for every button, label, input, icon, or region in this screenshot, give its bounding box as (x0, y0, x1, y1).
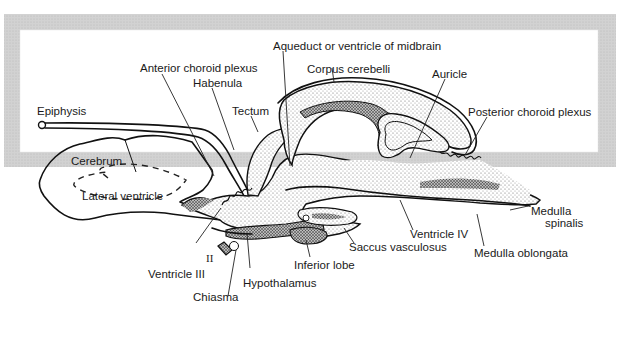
label-cerebrum: Cerebrum (71, 155, 122, 167)
label-inferior-lobe: Inferior lobe (294, 259, 355, 271)
label-aqueduct: Aqueduct or ventricle of midbrain (273, 40, 441, 52)
label-spinalis: spinalis (545, 217, 584, 229)
inferior-lobe-shape (290, 227, 327, 244)
brain-diagram: Aqueduct or ventricle of midbrain Corpus… (0, 0, 619, 345)
label-tectum: Tectum (232, 105, 269, 117)
saccus-vasculosus-shape (298, 208, 357, 225)
label-nerve-ii: II (206, 252, 214, 264)
label-habenula: Habenula (193, 77, 243, 89)
label-chiasma: Chiasma (193, 291, 239, 303)
label-medulla-oblongata: Medulla oblongata (474, 247, 569, 259)
label-auricle: Auricle (432, 68, 467, 80)
label-posterior-choroid-plexus: Posterior choroid plexus (468, 106, 592, 118)
label-hypothalamus: Hypothalamus (243, 277, 317, 289)
label-epiphysis: Epiphysis (37, 105, 86, 117)
label-medulla: Medulla (531, 205, 572, 217)
label-lateral-ventricle: Lateral ventricle (82, 190, 163, 202)
label-anterior-choroid-plexus: Anterior choroid plexus (140, 62, 258, 74)
label-ventricle-iii: Ventricle III (148, 268, 205, 280)
label-corpus-cerebelli: Corpus cerebelli (307, 63, 390, 75)
label-ventricle-iv: Ventricle IV (410, 228, 468, 240)
chiasma-circle (230, 242, 239, 251)
label-saccus-vasculosus: Saccus vasculosus (349, 241, 447, 253)
